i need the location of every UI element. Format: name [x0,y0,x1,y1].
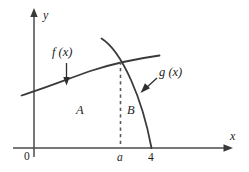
g-label-pointer [141,78,158,93]
figure-area-between-curves: y x 0 a 4 f (x) g (x) A B [0,0,249,172]
tick-label-a: a [117,151,123,163]
g-curve-path [102,39,152,149]
figure-canvas: y x 0 a 4 f (x) g (x) A B [0,0,249,172]
y-axis-label: y [42,8,49,22]
g-curve-label: g (x) [159,65,182,79]
tick-label-4: 4 [148,151,154,163]
f-curve-label: f (x) [52,45,72,59]
origin-label: 0 [24,150,30,162]
curves-group [22,39,160,149]
f-curve-path [22,56,160,96]
region-label-a: A [75,103,84,117]
x-axis-arrowhead [224,144,234,152]
g-pointer-arrowhead [141,83,151,93]
axes-group [13,8,233,157]
y-axis-arrowhead [30,8,37,17]
region-label-b: B [127,103,135,117]
x-axis-label: x [229,129,236,143]
f-label-pointer [63,63,69,86]
